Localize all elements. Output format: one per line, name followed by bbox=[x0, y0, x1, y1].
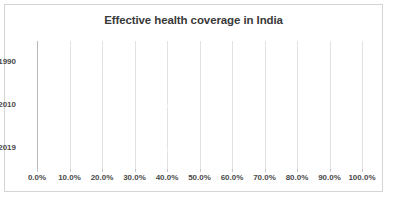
gridline bbox=[232, 41, 233, 169]
category-label-2010: 2010 bbox=[0, 92, 16, 118]
gridline bbox=[265, 41, 266, 169]
chart-container: Effective health coverage in India 26.9%… bbox=[4, 4, 383, 192]
category-label-1990: 1990 bbox=[0, 49, 16, 75]
bar-value-label: 46.8% bbox=[156, 135, 183, 161]
bar-1990[interactable]: 26.9% bbox=[37, 49, 124, 75]
category-label-2019: 2019 bbox=[0, 135, 16, 161]
tick-mark bbox=[297, 169, 298, 172]
tick-mark bbox=[232, 169, 233, 172]
x-tick-label: 100.0% bbox=[342, 173, 382, 182]
gridline bbox=[200, 41, 201, 169]
tick-mark bbox=[70, 169, 71, 172]
tick-mark bbox=[37, 169, 38, 172]
tick-mark bbox=[265, 169, 266, 172]
bar-value-label: 42.1% bbox=[141, 92, 168, 118]
tick-mark bbox=[102, 169, 103, 172]
tick-mark bbox=[167, 169, 168, 172]
gridline bbox=[297, 41, 298, 169]
gridline bbox=[362, 41, 363, 169]
chart-title: Effective health coverage in India bbox=[5, 14, 382, 26]
tick-mark bbox=[200, 169, 201, 172]
tick-mark bbox=[362, 169, 363, 172]
bar-2019[interactable]: 46.8% bbox=[37, 135, 189, 161]
bar-value-label: 26.9% bbox=[91, 49, 118, 75]
tick-mark bbox=[135, 169, 136, 172]
bar-2010[interactable]: 42.1% bbox=[37, 92, 174, 118]
tick-mark bbox=[330, 169, 331, 172]
gridline bbox=[330, 41, 331, 169]
